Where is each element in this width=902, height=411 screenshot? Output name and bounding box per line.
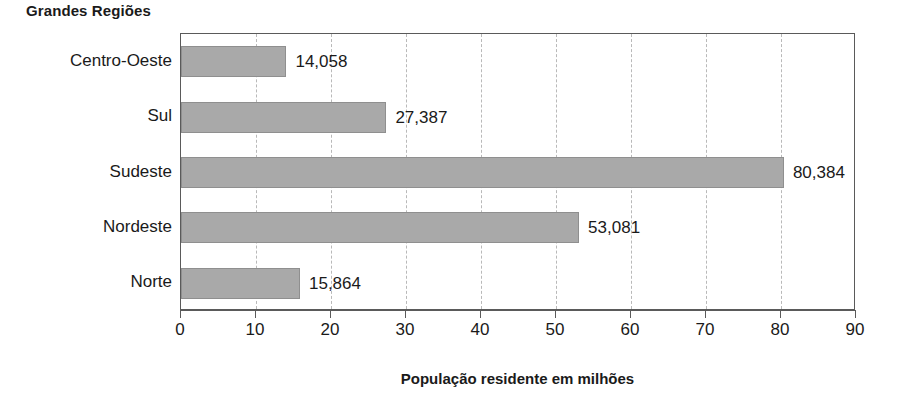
bar-value-label: 27,387	[395, 109, 447, 126]
x-axis-tick-label: 90	[846, 321, 865, 338]
bar-value-label: 15,864	[309, 275, 361, 292]
bar-value-label: 53,081	[588, 219, 640, 236]
bar	[181, 268, 300, 299]
x-axis-tick-label: 80	[771, 321, 790, 338]
bar	[181, 157, 784, 188]
x-axis-tick-label: 50	[546, 321, 565, 338]
bar-row: 27,387	[181, 102, 854, 133]
x-axis-tick	[480, 310, 481, 318]
bar-row: 14,058	[181, 46, 854, 77]
x-axis-tick-label: 30	[396, 321, 415, 338]
chart-title: Grandes Regiões	[26, 2, 151, 19]
bar-chart: Grandes Regiões Centro-OesteSulSudesteNo…	[0, 0, 902, 411]
y-axis-label: Norte	[0, 273, 172, 290]
y-axis-label: Centro-Oeste	[0, 52, 172, 69]
y-axis-category-labels: Centro-OesteSulSudesteNordesteNorte	[0, 33, 172, 310]
bar	[181, 46, 286, 77]
y-axis-label: Sul	[0, 107, 172, 124]
x-axis-tick	[630, 310, 631, 318]
y-axis-label: Sudeste	[0, 163, 172, 180]
x-axis-tick	[330, 310, 331, 318]
x-axis-tick-label: 40	[471, 321, 490, 338]
x-axis-tick-label: 60	[621, 321, 640, 338]
bar-row: 53,081	[181, 212, 854, 243]
x-axis-title: População residente em milhões	[180, 370, 855, 387]
bar-row: 15,864	[181, 268, 854, 299]
x-axis-tick	[405, 310, 406, 318]
x-axis-tick	[555, 310, 556, 318]
bar-value-label: 14,058	[295, 53, 347, 70]
plot-area: 14,05827,38780,38453,08115,864	[180, 33, 855, 310]
x-axis-tick	[180, 310, 181, 318]
x-axis-tick-label: 10	[246, 321, 265, 338]
y-axis-label: Nordeste	[0, 218, 172, 235]
x-axis-tick-label: 20	[321, 321, 340, 338]
x-axis-tick-label: 70	[696, 321, 715, 338]
x-axis-tick	[255, 310, 256, 318]
bars-layer: 14,05827,38780,38453,08115,864	[181, 34, 854, 309]
x-axis-tick	[780, 310, 781, 318]
x-axis-ticks	[180, 310, 855, 318]
bar-value-label: 80,384	[793, 164, 845, 181]
x-axis-tick	[705, 310, 706, 318]
bar	[181, 102, 386, 133]
x-axis-tick-labels: 0102030405060708090	[180, 321, 855, 345]
x-axis-tick-label: 0	[175, 321, 184, 338]
bar-row: 80,384	[181, 157, 854, 188]
bar	[181, 212, 579, 243]
x-axis-tick	[855, 310, 856, 318]
